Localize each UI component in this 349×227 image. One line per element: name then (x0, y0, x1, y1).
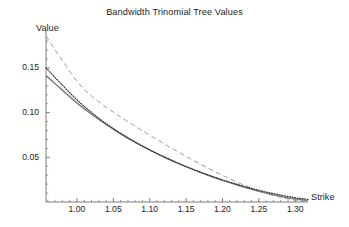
series-group (46, 36, 308, 201)
series-dotted-lower-curve (46, 68, 308, 199)
x-tick-label: 1.15 (171, 204, 201, 214)
x-tick-label: 1.30 (280, 204, 310, 214)
y-axis-label: Value (36, 23, 59, 33)
axes-group (46, 30, 308, 202)
series-solid-lower-curve (46, 76, 308, 201)
y-tick-label: 0.05 (13, 152, 39, 162)
x-tick-label: 1.00 (62, 204, 92, 214)
y-tick-label: 0.10 (13, 107, 39, 117)
series-dashed-upper-curve (46, 36, 308, 201)
chart-plot-area (0, 0, 349, 227)
y-tick-label: 0.15 (13, 62, 39, 72)
chart-figure: Bandwidth Trinomial Tree Values Value St… (0, 0, 349, 227)
x-axis-label: Strike (311, 192, 335, 202)
x-tick-label: 1.25 (244, 204, 274, 214)
x-tick-label: 1.05 (98, 204, 128, 214)
x-tick-label: 1.20 (207, 204, 237, 214)
x-tick-label: 1.10 (135, 204, 165, 214)
